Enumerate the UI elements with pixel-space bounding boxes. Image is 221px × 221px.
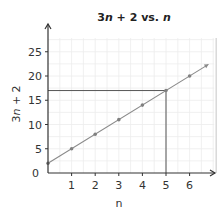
svg-text:10: 10 <box>28 119 42 132</box>
data-series <box>46 64 208 165</box>
x-tick-labels: 123456 <box>68 179 193 192</box>
grid <box>48 38 216 173</box>
svg-text:0: 0 <box>32 167 39 180</box>
y-tick-labels: 0510152025 <box>28 46 42 180</box>
y-axis-label: 3n + 2 <box>10 85 23 122</box>
x-axis-label: n <box>116 197 123 210</box>
svg-text:4: 4 <box>139 179 146 192</box>
svg-text:5: 5 <box>163 179 170 192</box>
svg-text:15: 15 <box>28 94 42 107</box>
svg-text:2: 2 <box>92 179 99 192</box>
svg-text:25: 25 <box>28 46 42 59</box>
svg-text:5: 5 <box>35 143 42 156</box>
svg-text:6: 6 <box>186 179 193 192</box>
svg-text:1: 1 <box>68 179 75 192</box>
svg-text:20: 20 <box>28 70 42 83</box>
chart: 3n + 2 vs. n 123456 0510152025 n 3n + 2 <box>0 0 221 221</box>
svg-text:3: 3 <box>115 179 122 192</box>
chart-title: 3n + 2 vs. n <box>97 11 171 24</box>
